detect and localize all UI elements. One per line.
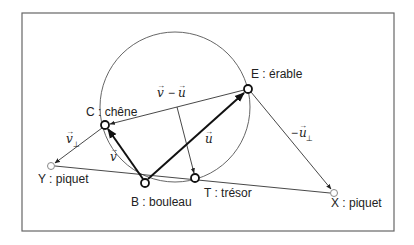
arrow-over-v2: → bbox=[110, 145, 118, 154]
arrow-over-u2: → bbox=[205, 127, 213, 136]
label-E: E : érable bbox=[251, 67, 303, 81]
label-Y: Y : piquet bbox=[38, 172, 89, 186]
diagram-canvas: C : chêne E : érable B : bouleau T : tré… bbox=[0, 0, 414, 245]
point-B bbox=[141, 179, 149, 187]
point-C bbox=[101, 121, 109, 129]
vector-neg-u-perp bbox=[251, 92, 331, 189]
arrow-over-u1: → bbox=[178, 81, 186, 90]
label-neg-u-perp-sub: ⊥ bbox=[306, 134, 313, 143]
label-X: X : piquet bbox=[331, 196, 382, 210]
point-Y bbox=[48, 163, 55, 170]
label-C: C : chêne bbox=[86, 105, 138, 119]
label-u: u → bbox=[205, 127, 213, 146]
point-T bbox=[191, 174, 199, 182]
label-T: T : trésor bbox=[204, 186, 252, 200]
arrow-over-u3: → bbox=[299, 121, 307, 130]
label-v-perp-sub: ⊥ bbox=[73, 140, 80, 149]
point-E bbox=[244, 85, 252, 93]
label-B: B : bouleau bbox=[131, 195, 192, 209]
label-v-minus-u: v → − u → bbox=[157, 81, 186, 100]
label-neg-u-perp: − u → ⊥ bbox=[291, 121, 313, 143]
label-neg-u-perp-minus: − bbox=[291, 126, 298, 140]
vector-u bbox=[148, 93, 244, 179]
arrow-over-v1: → bbox=[157, 81, 165, 90]
label-v-perp: v → ⊥ bbox=[66, 127, 80, 149]
label-v-minus-u-minus: − bbox=[168, 86, 175, 100]
arrow-over-v3: → bbox=[66, 127, 74, 136]
